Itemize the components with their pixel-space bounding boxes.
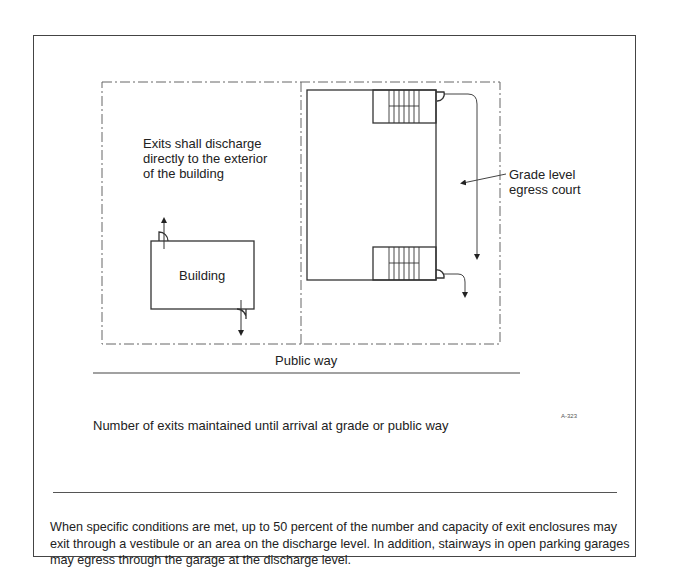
note-line: of the building	[143, 166, 267, 181]
figure-title: Number of exits maintained until arrival…	[93, 418, 449, 433]
door-swing-icon	[237, 309, 246, 319]
egress-diagram	[0, 0, 673, 568]
egress-arrow-icon	[444, 274, 465, 295]
stair-top	[373, 90, 436, 123]
note-line: directly to the exterior	[143, 151, 267, 166]
label-line: Grade level	[509, 167, 581, 182]
figure-caption: When specific conditions are met, up to …	[50, 519, 630, 568]
egress-arrow-icon	[444, 94, 477, 257]
door-swing-icon	[436, 270, 444, 278]
stair-bottom	[373, 247, 436, 280]
door-swing-icon	[436, 92, 444, 101]
public-way-label: Public way	[275, 353, 337, 368]
figure-id: A-323	[561, 413, 577, 419]
property-lines	[102, 82, 500, 344]
large-building	[307, 90, 444, 280]
label-line: egress court	[509, 182, 581, 197]
building-label: Building	[179, 268, 225, 283]
note-line: Exits shall discharge	[143, 136, 267, 151]
caption-divider	[53, 492, 617, 493]
egress-court-label: Grade level egress court	[509, 167, 581, 197]
left-zone-note: Exits shall discharge directly to the ex…	[143, 136, 267, 181]
egress-paths	[444, 94, 506, 295]
